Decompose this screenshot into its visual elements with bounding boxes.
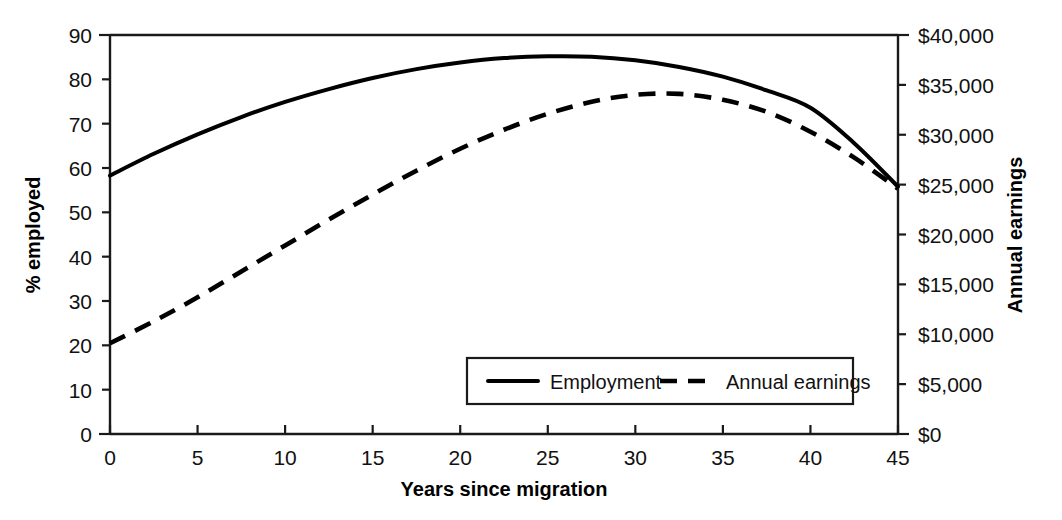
right-tick-label: $30,000 [918, 124, 994, 147]
right-tick-label: $15,000 [918, 273, 994, 296]
left-tick-label: 30 [69, 290, 92, 313]
left-tick-label: 50 [69, 201, 92, 224]
left-tick-label: 10 [69, 379, 92, 402]
figure-background [0, 0, 1062, 520]
legend-label-annual-earnings: Annual earnings [726, 371, 871, 393]
x-tick-label: 15 [361, 446, 384, 469]
left-tick-label: 60 [69, 157, 92, 180]
chart-legend: Employment Annual earnings [467, 358, 871, 404]
legend-label-employment: Employment [550, 371, 662, 393]
x-tick-label: 40 [799, 446, 822, 469]
x-tick-label: 45 [886, 446, 909, 469]
right-tick-label: $5,000 [918, 373, 982, 396]
right-tick-label: $10,000 [918, 323, 994, 346]
right-tick-label: $0 [918, 423, 941, 446]
x-tick-label: 20 [449, 446, 472, 469]
right-tick-label: $20,000 [918, 224, 994, 247]
right-tick-label: $35,000 [918, 74, 994, 97]
right-tick-label: $25,000 [918, 174, 994, 197]
x-tick-label: 30 [624, 446, 647, 469]
left-tick-label: 80 [69, 68, 92, 91]
x-axis-title: Years since migration [401, 478, 608, 500]
x-tick-label: 5 [192, 446, 204, 469]
chart-canvas: 0102030405060708090 $0$5,000$10,000$15,0… [0, 0, 1062, 520]
y2-axis-title: Annual earnings [1004, 157, 1026, 314]
right-tick-label: $40,000 [918, 24, 994, 47]
chart-figure: 0102030405060708090 $0$5,000$10,000$15,0… [0, 0, 1062, 520]
x-tick-label: 0 [104, 446, 116, 469]
x-tick-label: 10 [273, 446, 296, 469]
left-tick-label: 20 [69, 334, 92, 357]
left-tick-label: 40 [69, 246, 92, 269]
y-axis-title: % employed [22, 177, 44, 294]
left-tick-label: 0 [80, 423, 92, 446]
x-tick-label: 25 [536, 446, 559, 469]
left-tick-label: 70 [69, 113, 92, 136]
x-tick-label: 35 [711, 446, 734, 469]
left-tick-label: 90 [69, 24, 92, 47]
